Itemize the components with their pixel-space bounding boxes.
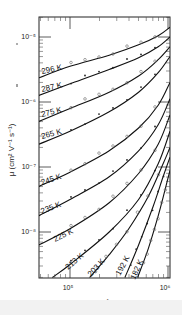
filled-dot-marker [98, 182, 100, 184]
filled-dot-marker [98, 113, 100, 115]
open-circle-marker [126, 45, 129, 48]
y-tick-label: 10⁻⁶ [21, 98, 36, 105]
filled-dot-marker [112, 67, 114, 69]
x-tick-label: 10⁶ [160, 284, 171, 291]
filled-dot-marker [140, 147, 142, 149]
filled-dot-marker [152, 209, 154, 211]
filled-dot-marker [146, 223, 148, 225]
curve-label: 275 K [40, 105, 63, 119]
open-circle-marker [112, 195, 115, 198]
filled-dot-marker [126, 209, 128, 211]
filled-dot-marker [98, 71, 100, 73]
open-circle-marker [140, 70, 143, 73]
filled-dot-marker [126, 159, 128, 161]
filled-dot-marker [70, 83, 72, 85]
filled-dot-marker [154, 170, 156, 172]
curve-213k [52, 131, 170, 277]
filled-dot-marker [70, 196, 72, 198]
open-circle-marker [84, 216, 87, 219]
filled-dot-marker [140, 54, 142, 56]
y-axis-title: μ (cm² V⁻¹ s⁻¹) [7, 123, 16, 176]
open-circle-marker [84, 98, 87, 101]
open-circle-marker [154, 106, 157, 109]
curve-label: 245 K [40, 172, 63, 187]
filled-dot-marker [157, 191, 159, 193]
curve-label: 296 K [41, 63, 64, 76]
filled-dot-marker [126, 58, 128, 60]
filled-dot-marker [130, 264, 132, 266]
filled-dot-marker [98, 239, 100, 241]
filled-dot-marker [112, 170, 114, 172]
filled-dot-marker [112, 107, 114, 109]
page-footer-band [0, 300, 182, 315]
filled-dot-marker [126, 99, 128, 101]
filled-dot-marker [154, 47, 156, 49]
open-circle-marker [140, 41, 143, 44]
filled-dot-marker [135, 248, 137, 250]
open-circle-marker [112, 145, 115, 148]
open-circle-marker [136, 211, 139, 214]
open-circle-marker [98, 93, 101, 96]
filled-dot-marker [84, 75, 86, 77]
stray-mark [16, 43, 18, 45]
curve-label: 287 K [40, 80, 63, 94]
curve-label: 203 K [86, 256, 107, 278]
filled-dot-marker [163, 176, 165, 178]
open-circle-marker [98, 152, 101, 155]
open-circle-marker [126, 182, 129, 185]
filled-dot-marker [154, 73, 156, 75]
filled-dot-marker [84, 189, 86, 191]
x-tick-label: 10⁵ [63, 284, 74, 291]
filled-dot-marker [140, 194, 142, 196]
filled-dot-marker [70, 129, 72, 131]
stray-mark [17, 84, 18, 87]
filled-dot-marker [84, 123, 86, 125]
filled-dot-marker [154, 126, 156, 128]
filled-dot-marker [112, 228, 114, 230]
y-tick-label: 10⁻⁷ [22, 163, 37, 170]
curve-label: 235 K [39, 199, 62, 215]
mobility-vs-field-chart: 10⁻⁵ 10⁻⁶ 10⁻⁷ 10⁻⁸ 10⁵ 10⁶ E (V cm⁻¹) μ… [0, 0, 182, 315]
open-circle-marker [84, 58, 87, 61]
y-tick-label: 10⁻⁵ [21, 33, 36, 40]
y-tick-label: 10⁻⁸ [21, 228, 36, 235]
curve-192k [125, 157, 170, 277]
curve-label: 182 K [129, 257, 146, 280]
filled-dot-marker [140, 86, 142, 88]
filled-dot-marker [141, 236, 143, 238]
curve-label: 225 K [52, 226, 75, 244]
filled-dot-marker [84, 249, 86, 251]
open-circle-marker [105, 255, 108, 258]
curve-labels: 296 K287 K275 K265 K245 K235 K225 K213 K… [39, 63, 145, 281]
x-axis-ticks [70, 17, 168, 278]
curve-label: 213 K [64, 251, 86, 272]
open-circle-marker [70, 61, 73, 64]
